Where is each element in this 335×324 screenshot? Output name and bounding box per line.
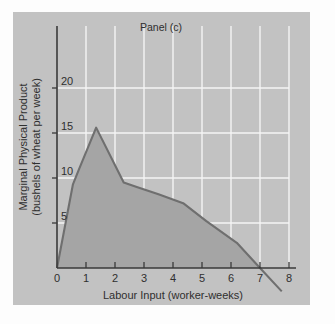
chart-panel: 5101520 012345678 Panel (c) Labour Input… <box>13 12 310 305</box>
y-axis-title-line1: Marginal Physical Product <box>17 83 29 210</box>
x-axis-tick-label: 5 <box>199 272 205 284</box>
x-axis-tick-label: 7 <box>257 272 263 284</box>
x-axis-tick-label: 0 <box>54 272 60 284</box>
x-axis-tick-label: 4 <box>170 272 176 284</box>
y-axis-tick-label: 15 <box>61 120 73 132</box>
x-axis-tick-label: 6 <box>228 272 234 284</box>
y-axis-title-line2: (bushels of wheat per week) <box>30 78 42 216</box>
y-axis-tick-label: 5 <box>61 210 67 222</box>
chart-canvas: 5101520 012345678 Panel (c) Labour Input… <box>13 12 310 305</box>
x-axis-title: Labour Input (worker-weeks) <box>103 289 243 301</box>
panel-title: Panel (c) <box>140 21 182 33</box>
x-axis-tick-label: 1 <box>83 272 89 284</box>
x-axis-tick-label: 8 <box>286 272 292 284</box>
x-axis-tick-labels: 012345678 <box>54 272 292 284</box>
y-axis-tick-label: 20 <box>61 75 73 87</box>
x-axis-tick-label: 2 <box>112 272 118 284</box>
figure-root: 5101520 012345678 Panel (c) Labour Input… <box>0 0 335 324</box>
y-axis-tick-label: 10 <box>61 165 73 177</box>
x-axis-tick-label: 3 <box>141 272 147 284</box>
